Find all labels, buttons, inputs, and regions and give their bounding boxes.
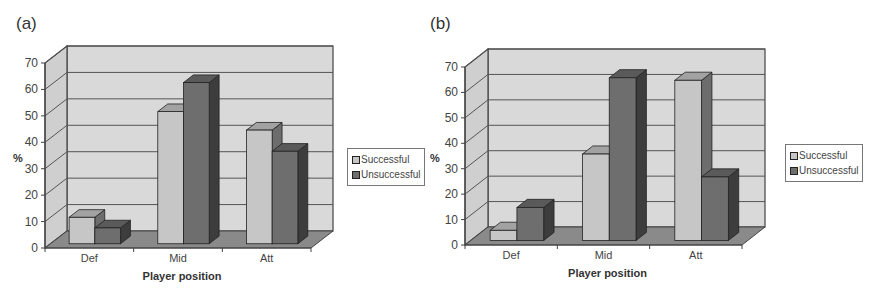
bar-successful-mid xyxy=(158,112,184,244)
legend-a: Successful Unsuccessful xyxy=(347,148,425,186)
legend-item-unsuccessful: Unsuccessful xyxy=(790,163,858,178)
x-axis-title: Player position xyxy=(568,267,647,279)
unsuccessful-swatch-icon xyxy=(790,167,798,175)
y-tick-label: 20 xyxy=(445,187,459,201)
y-axis-title: % xyxy=(13,152,23,164)
bar-successful-att xyxy=(246,130,272,244)
bar-unsuccessful-att xyxy=(272,151,298,244)
successful-swatch-icon xyxy=(352,156,360,164)
y-tick-label: 30 xyxy=(445,162,459,176)
bar-unsuccessful-def xyxy=(95,228,121,244)
legend-b: Successful Unsuccessful xyxy=(785,144,863,182)
bar-successful-def xyxy=(490,230,517,240)
legend-label: Successful xyxy=(361,152,409,167)
bar-chart-a: 010203040506070DefMidAttPlayer position% xyxy=(0,0,436,294)
y-tick-label: 10 xyxy=(25,215,39,229)
y-tick-label: 50 xyxy=(445,111,459,125)
y-axis-title: % xyxy=(430,152,440,164)
legend-label: Unsuccessful xyxy=(361,167,420,182)
legend-item-successful: Successful xyxy=(790,148,858,163)
x-axis-title: Player position xyxy=(143,270,222,282)
chart-panel-a: (a) 010203040506070DefMidAttPlayer posit… xyxy=(0,0,436,294)
unsuccessful-swatch-icon xyxy=(352,171,360,179)
x-category-label: Att xyxy=(260,252,273,264)
bar-successful-mid xyxy=(582,154,609,240)
legend-label: Unsuccessful xyxy=(799,163,858,178)
y-tick-label: 0 xyxy=(31,241,38,255)
bar-unsuccessful-att xyxy=(702,177,729,241)
bar-successful-def xyxy=(69,217,95,243)
x-category-label: Mid xyxy=(595,249,613,261)
y-tick-label: 50 xyxy=(25,109,39,123)
legend-label: Successful xyxy=(799,148,847,163)
legend-item-successful: Successful xyxy=(352,152,420,167)
bar-successful-att xyxy=(675,80,702,240)
x-category-label: Att xyxy=(689,249,702,261)
bar-unsuccessful-mid xyxy=(609,78,636,241)
bar-unsuccessful-def xyxy=(517,207,544,240)
y-tick-label: 0 xyxy=(451,238,458,252)
y-tick-label: 40 xyxy=(445,136,459,150)
successful-swatch-icon xyxy=(790,152,798,160)
x-category-label: Mid xyxy=(169,252,187,264)
chart-panel-b: (b) 010203040506070DefMidAttPlayer posit… xyxy=(430,0,866,294)
y-tick-label: 60 xyxy=(25,82,39,96)
legend-item-unsuccessful: Unsuccessful xyxy=(352,167,420,182)
y-tick-label: 70 xyxy=(25,56,39,70)
y-tick-label: 70 xyxy=(445,60,459,74)
y-tick-label: 10 xyxy=(445,213,459,227)
y-tick-label: 40 xyxy=(25,135,39,149)
y-tick-label: 60 xyxy=(445,85,459,99)
y-tick-label: 20 xyxy=(25,188,39,202)
bar-unsuccessful-mid xyxy=(184,83,210,244)
y-tick-label: 30 xyxy=(25,162,39,176)
x-category-label: Def xyxy=(81,252,99,264)
x-category-label: Def xyxy=(503,249,521,261)
